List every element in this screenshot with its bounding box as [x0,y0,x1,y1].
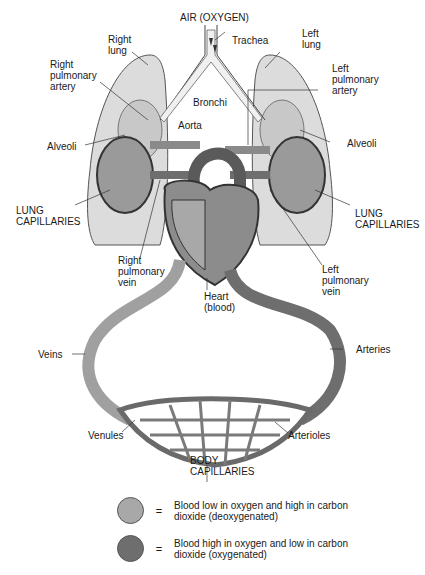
label-air-oxygen: AIR (OXYGEN) [180,12,249,23]
legend-equals: = [144,505,174,517]
label-body-capillaries: BODY CAPILLARIES [190,455,254,477]
deoxygenated-swatch [117,497,144,524]
right-lung-capillaries [97,137,153,213]
oxygenated-swatch [117,535,144,562]
legend-equals: = [144,543,174,555]
label-alveoli-right-lung: Alveoli [47,141,76,152]
label-trachea: Trachea [232,35,268,46]
label-left-lung: Left lung [302,28,321,50]
label-right-pulmonary-artery: Right pulmonary artery [50,59,97,92]
legend-text-oxygenated: Blood high in oxygen and low in carbon d… [174,538,354,560]
left-lung-capillaries [269,137,325,213]
label-venules: Venules [88,430,124,441]
label-lung-capillaries-left-lung: LUNG CAPILLARIES [355,208,419,230]
legend-row-oxygenated: = Blood high in oxygen and low in carbon… [117,535,354,562]
label-veins: Veins [38,349,62,360]
legend-row-deoxygenated: = Blood low in oxygen and high in carbon… [117,497,354,524]
legend-text-deoxygenated: Blood low in oxygen and high in carbon d… [174,500,354,522]
label-heart: Heart (blood) [204,291,235,313]
label-right-pulmonary-vein: Right pulmonary vein [118,255,165,288]
label-arterioles: Arterioles [288,430,330,441]
label-left-pulmonary-vein: Left pulmonary vein [322,264,369,297]
label-alveoli-left-lung: Alveoli [347,138,376,149]
label-right-lung: Right lung [108,34,131,56]
label-aorta: Aorta [178,120,202,131]
label-left-pulmonary-artery: Left pulmonary artery [332,63,379,96]
label-arteries: Arteries [356,344,390,355]
label-bronchi: Bronchi [193,97,227,108]
label-lung-capillaries-right-lung: LUNG CAPILLARIES [16,205,80,227]
